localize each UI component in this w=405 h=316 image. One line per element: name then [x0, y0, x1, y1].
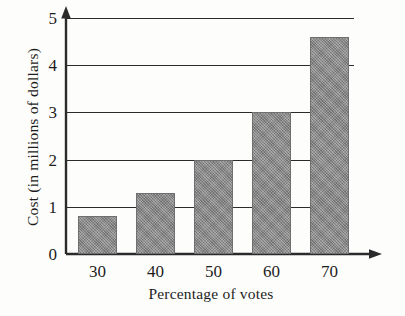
y-tick-label-0: 0	[49, 246, 58, 263]
y-tick-label-2: 2	[49, 151, 58, 168]
gridline-3	[66, 112, 348, 113]
x-tick-label-50: 50	[205, 263, 222, 280]
bar-70	[310, 37, 349, 254]
y-axis-title: Cost (in millions of dollars)	[24, 22, 42, 252]
x-axis-title: Percentage of votes	[66, 285, 356, 303]
x-tick-label-60: 60	[263, 263, 280, 280]
bar-60	[252, 112, 291, 254]
x-tick-label-30: 30	[89, 263, 106, 280]
x-tick-label-70: 70	[321, 263, 338, 280]
plot-area: 5 4 3 2 1 0 30 40 50 60 70	[66, 18, 356, 254]
x-tick-label-40: 40	[147, 263, 164, 280]
bar-chart-figure: Cost (in millions of dollars) 5 4 3 2 1 …	[0, 0, 405, 316]
right-arrow-icon	[369, 249, 382, 259]
bar-30	[78, 216, 117, 254]
bar-50	[194, 160, 233, 254]
up-arrow-icon	[61, 6, 71, 19]
bar-40	[136, 193, 175, 254]
y-tick-label-4: 4	[49, 57, 58, 74]
y-tick-label-5: 5	[49, 10, 58, 27]
y-tick-label-1: 1	[49, 198, 58, 215]
y-tick-label-3: 3	[49, 104, 58, 121]
gridline-5	[66, 18, 354, 19]
